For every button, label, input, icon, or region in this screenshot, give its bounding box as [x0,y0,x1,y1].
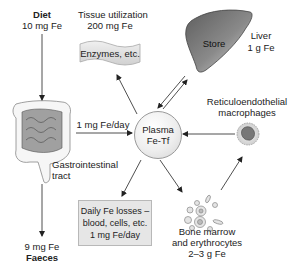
erythrocytes-label: and erythrocytes [170,237,244,248]
macrophage-icon [237,123,259,145]
bone-marrow-label: Bone marrow [170,226,244,237]
daily-fe-losses-box: Daily Fe losses – blood, cells, etc. 1 m… [78,200,152,246]
bone-marrow-amount: 2–3 g Fe [170,248,244,259]
diet-amount: 10 mg Fe [18,20,66,31]
absorption-rate-label: 1 mg Fe/day [74,119,132,130]
faeces-amount: 9 mg Fe [18,241,66,252]
liver-label: Liver [248,30,274,41]
gi-tract-label-2: tract [52,170,92,181]
tissue-utilization-label: Tissue utilization [78,9,142,20]
plasma-fe-tf-node: Plasma Fe-Tf [134,111,182,159]
tissue-amount: 200 mg Fe [78,20,142,31]
diet-label: Diet [28,9,56,20]
liver-store-label: Store [196,38,232,49]
liver-amount: 1 g Fe [244,42,278,53]
losses-line1: Daily Fe losses – [81,205,150,217]
gi-tract-label: Gastrointestinal [52,159,114,170]
fe-tf-label: Fe-Tf [147,135,170,146]
faeces-label: Faeces [18,252,66,263]
macrophages-label: macrophages [210,107,284,118]
enzymes-label: Enzymes, etc. [80,48,140,59]
losses-line2: blood, cells, etc. [83,217,148,229]
plasma-label: Plasma [142,124,174,135]
reticuloendothelial-label: Reticuloendothelial [203,96,291,107]
losses-line3: 1 mg Fe/day [90,229,140,241]
